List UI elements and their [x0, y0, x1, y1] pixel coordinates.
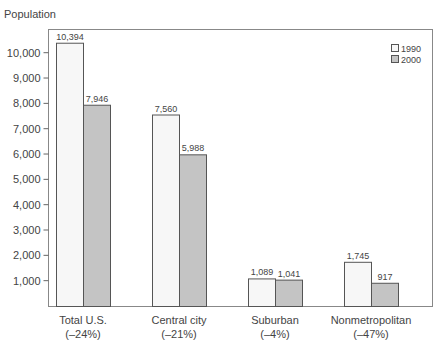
y-axis-title: Population: [4, 8, 56, 20]
x-category-sublabel: (–4%): [260, 328, 289, 340]
x-category-sublabel: (–47%): [353, 328, 388, 340]
bar-1990: [153, 115, 180, 306]
y-tick-label: 2,000: [13, 249, 41, 261]
bar-2000: [372, 283, 399, 306]
x-category-sublabel: (–24%): [65, 328, 100, 340]
y-tick-label: 5,000: [13, 173, 41, 185]
legend-swatch-2000: [392, 56, 399, 63]
x-category-label: Total U.S.: [59, 314, 107, 326]
bar-2000: [84, 105, 111, 306]
data-label: 5,988: [182, 143, 205, 153]
y-tick-label: 8,000: [13, 97, 41, 109]
x-category-label: Suburban: [251, 314, 299, 326]
bar-1990: [345, 262, 372, 306]
bars: 10,3947,9467,5605,9881,0891,0411,745917: [56, 32, 398, 307]
x-category-label: Nonmetropolitan: [331, 314, 412, 326]
legend: 19902000: [392, 44, 422, 65]
y-tick-label: 10,000: [7, 47, 41, 59]
legend-label-2000: 2000: [401, 55, 421, 65]
data-label: 1,745: [347, 251, 370, 261]
y-tick-label: 7,000: [13, 123, 41, 135]
x-category-sublabel: (–21%): [161, 328, 196, 340]
data-label: 10,394: [56, 32, 84, 42]
y-tick-label: 6,000: [13, 148, 41, 160]
legend-label-1990: 1990: [401, 44, 421, 54]
data-label: 7,560: [155, 104, 178, 114]
bar-chart: Population 1,0002,0003,0004,0005,0006,00…: [0, 0, 448, 353]
y-axis: 1,0002,0003,0004,0005,0006,0007,0008,000…: [7, 47, 49, 287]
bar-1990: [57, 43, 84, 306]
bar-2000: [180, 155, 207, 307]
data-label: 7,946: [86, 94, 109, 104]
bar-2000: [276, 280, 303, 306]
y-tick-label: 4,000: [13, 199, 41, 211]
x-category-label: Central city: [151, 314, 207, 326]
y-tick-label: 1,000: [13, 275, 41, 287]
data-label: 1,089: [251, 267, 274, 277]
data-label: 917: [377, 272, 392, 282]
bar-1990: [249, 279, 276, 307]
legend-swatch-1990: [392, 45, 399, 52]
y-tick-label: 9,000: [13, 72, 41, 84]
y-tick-label: 3,000: [13, 224, 41, 236]
x-axis: Total U.S.(–24%)Central city(–21%)Suburb…: [59, 314, 411, 340]
data-label: 1,041: [278, 269, 301, 279]
